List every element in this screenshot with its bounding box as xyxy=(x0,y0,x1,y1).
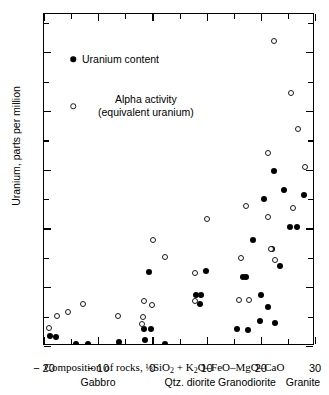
x-axis-title-formula-c: O–FeO–MgO–CaO xyxy=(198,361,285,373)
data-point-uranium-content xyxy=(53,334,59,340)
data-point-uranium-content xyxy=(234,326,240,332)
data-point-uranium-content xyxy=(265,304,271,310)
data-point-uranium-content xyxy=(116,339,122,344)
uranium-composition-scatter-chart: Uranium, parts per million 0246810− 20− … xyxy=(0,0,329,395)
x-axis-title-formula-a: SiO xyxy=(153,361,170,373)
data-point-uranium-content xyxy=(261,196,267,202)
data-point-alpha-activity xyxy=(80,301,86,307)
data-point-uranium-content xyxy=(245,327,251,333)
rock-category-label: Gabbro xyxy=(80,376,115,388)
data-point-uranium-content xyxy=(198,292,204,298)
y-axis-major-tick xyxy=(44,346,51,347)
data-point-alpha-activity xyxy=(150,237,156,243)
data-point-uranium-content xyxy=(243,274,249,280)
data-point-alpha-activity xyxy=(246,297,252,303)
data-point-alpha-activity xyxy=(288,90,294,96)
data-point-alpha-activity xyxy=(139,321,145,327)
data-point-uranium-content xyxy=(287,224,293,230)
data-point-alpha-activity xyxy=(149,302,155,308)
data-point-alpha-activity xyxy=(265,150,271,156)
data-point-alpha-activity xyxy=(243,203,249,209)
data-point-uranium-content xyxy=(148,326,154,332)
x-axis-title: Composition of rocks, ⅓SiO2 + K2O–FeO–Mg… xyxy=(0,361,329,375)
data-point-alpha-activity xyxy=(192,298,198,304)
data-point-alpha-activity xyxy=(141,298,147,304)
data-point-uranium-content xyxy=(271,168,277,174)
data-point-uranium-content xyxy=(277,263,283,269)
rock-category-labels: GabbroQtz. dioriteGranodioriteGranite xyxy=(0,376,329,392)
data-point-uranium-content xyxy=(203,268,209,274)
data-point-uranium-content xyxy=(142,337,148,343)
data-point-alpha-activity xyxy=(192,270,198,276)
data-point-uranium-content xyxy=(250,237,256,243)
x-axis-major-tick-top xyxy=(315,14,316,21)
data-point-alpha-activity xyxy=(162,254,168,260)
data-point-alpha-activity xyxy=(302,164,308,170)
data-point-uranium-content xyxy=(85,341,91,344)
data-point-alpha-activity xyxy=(265,214,271,220)
data-point-uranium-content xyxy=(258,292,264,298)
y-axis-major-tick-right xyxy=(306,346,313,347)
data-point-alpha-activity xyxy=(140,314,146,320)
x-axis-title-prefix: Composition of rocks, xyxy=(45,361,146,373)
data-point-alpha-activity xyxy=(115,313,121,319)
plot-area: 0246810− 20− 100102030 Uranium content A… xyxy=(43,13,314,345)
data-point-uranium-content xyxy=(162,341,168,344)
y-axis-title: Uranium, parts per million xyxy=(10,56,22,236)
data-point-alpha-activity xyxy=(204,216,210,222)
data-point-alpha-activity xyxy=(54,313,60,319)
data-point-alpha-activity xyxy=(268,246,274,252)
x-axis-title-fraction: ⅓ xyxy=(145,362,153,373)
data-point-uranium-content xyxy=(294,224,300,230)
data-point-alpha-activity xyxy=(295,126,301,132)
rock-category-label: Granite xyxy=(286,376,320,388)
data-points-layer xyxy=(44,14,313,344)
data-point-alpha-activity xyxy=(271,38,277,44)
data-point-uranium-content xyxy=(301,192,307,198)
data-point-alpha-activity xyxy=(272,257,278,263)
data-point-alpha-activity xyxy=(290,205,296,211)
data-point-uranium-content xyxy=(47,333,53,339)
rock-category-label: Granodiorite xyxy=(218,376,276,388)
data-point-uranium-content xyxy=(146,269,152,275)
x-axis-major-tick xyxy=(315,337,316,344)
data-point-uranium-content xyxy=(257,318,263,324)
data-point-alpha-activity xyxy=(65,309,71,315)
x-axis-title-formula-b: + K xyxy=(174,361,194,373)
data-point-alpha-activity xyxy=(46,325,52,331)
data-point-alpha-activity xyxy=(238,255,244,261)
data-point-uranium-content xyxy=(197,301,203,307)
data-point-alpha-activity xyxy=(236,297,242,303)
rock-category-label: Qtz. diorite xyxy=(165,376,216,388)
data-point-uranium-content xyxy=(272,320,278,326)
data-point-uranium-content xyxy=(281,187,287,193)
data-point-uranium-content xyxy=(73,341,79,344)
